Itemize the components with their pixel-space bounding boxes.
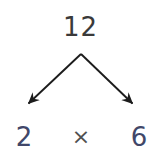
branch-right-arrow bbox=[81, 54, 133, 104]
branch-left-arrow bbox=[29, 54, 82, 104]
factor-tree-leaf-left: 2 bbox=[8, 124, 40, 150]
factor-tree-diagram: 12 2 × 6 bbox=[0, 0, 161, 157]
factor-tree-leaf-right: 6 bbox=[123, 124, 155, 150]
multiplication-sign-icon: × bbox=[65, 126, 97, 148]
